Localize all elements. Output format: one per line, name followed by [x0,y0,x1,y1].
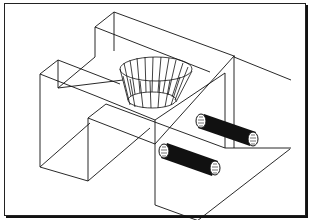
upper-bore [196,114,258,146]
lower-bore [159,143,220,176]
rear-block [95,12,235,72]
wireframe-drawing [0,0,309,220]
left-step-block [40,57,123,181]
right-block [155,56,291,220]
cone-pocket [120,57,192,108]
